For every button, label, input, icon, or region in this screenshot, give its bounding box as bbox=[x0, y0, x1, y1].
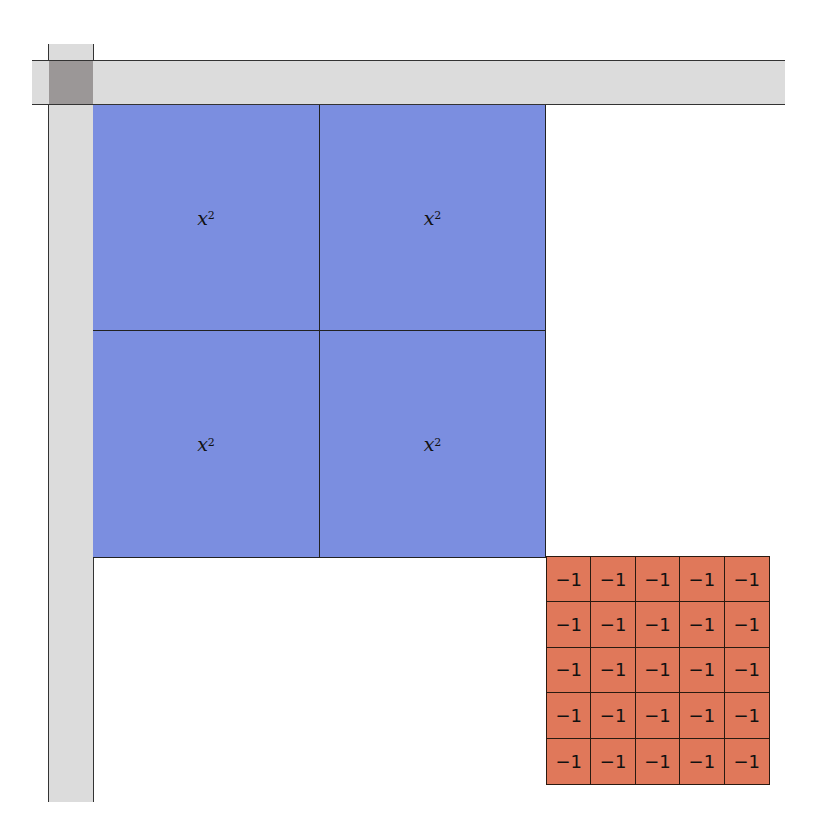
negative-unit-tile: −1 bbox=[725, 557, 769, 602]
negative-unit-tile: −1 bbox=[725, 739, 769, 784]
negative-unit-tiles: −1−1−1−1−1−1−1−1−1−1−1−1−1−1−1−1−1−1−1−1… bbox=[546, 556, 770, 785]
vertical-axis-bar bbox=[48, 44, 94, 802]
x-squared-tile: x2 bbox=[93, 105, 319, 331]
x-squared-tile: x2 bbox=[319, 331, 545, 557]
x-squared-tile: x2 bbox=[319, 105, 545, 331]
x-squared-tile: x2 bbox=[93, 331, 319, 557]
x-squared-tiles: x2 x2 x2 x2 bbox=[93, 105, 546, 558]
negative-unit-tile: −1 bbox=[680, 557, 724, 602]
negative-unit-tile: −1 bbox=[680, 602, 724, 647]
negative-unit-tile: −1 bbox=[591, 602, 635, 647]
negative-unit-tile: −1 bbox=[636, 602, 680, 647]
negative-unit-tile: −1 bbox=[636, 648, 680, 693]
horizontal-axis-bar bbox=[32, 60, 785, 105]
negative-unit-tile: −1 bbox=[547, 602, 591, 647]
negative-unit-tile: −1 bbox=[591, 693, 635, 738]
axis-overlap-square bbox=[49, 61, 93, 104]
negative-unit-tile: −1 bbox=[547, 557, 591, 602]
negative-unit-tile: −1 bbox=[636, 739, 680, 784]
negative-unit-tile: −1 bbox=[680, 648, 724, 693]
negative-unit-tile: −1 bbox=[725, 648, 769, 693]
negative-unit-tile: −1 bbox=[591, 739, 635, 784]
negative-unit-tile: −1 bbox=[547, 648, 591, 693]
negative-unit-tile: −1 bbox=[591, 648, 635, 693]
negative-unit-tile: −1 bbox=[680, 739, 724, 784]
negative-unit-tile: −1 bbox=[547, 739, 591, 784]
negative-unit-tile: −1 bbox=[591, 557, 635, 602]
negative-unit-tile: −1 bbox=[725, 693, 769, 738]
negative-unit-tile: −1 bbox=[725, 602, 769, 647]
negative-unit-tile: −1 bbox=[636, 693, 680, 738]
negative-unit-tile: −1 bbox=[547, 693, 591, 738]
negative-unit-tile: −1 bbox=[636, 557, 680, 602]
negative-unit-tile: −1 bbox=[680, 693, 724, 738]
